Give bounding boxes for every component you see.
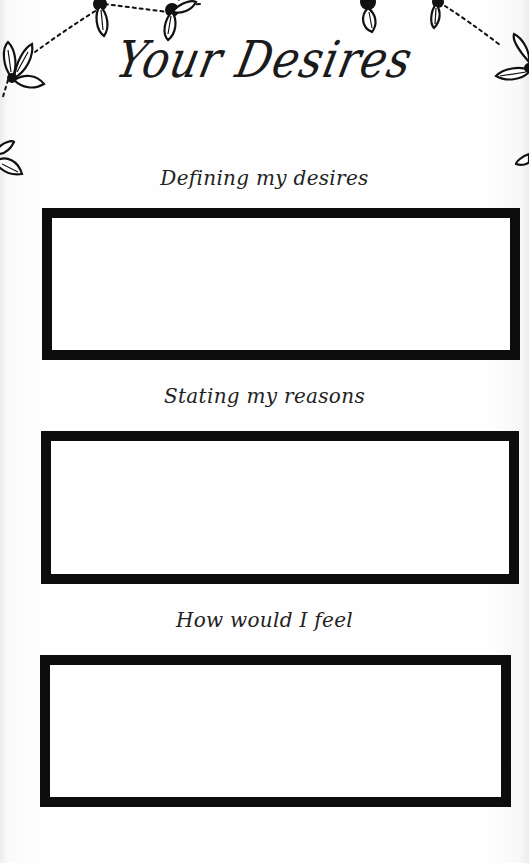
desires-writing-box[interactable] <box>42 208 520 360</box>
worksheet-page: Your Desires Defining my desires Stating… <box>0 0 529 863</box>
section-label-reasons: Stating my reasons <box>0 386 529 406</box>
leaf-cluster-icon <box>93 0 107 36</box>
page-title: Your Desires <box>0 35 529 86</box>
section-label-feelings: How would I feel <box>0 610 529 630</box>
section-label-desires: Defining my desires <box>0 168 529 188</box>
leaf-cluster-icon <box>360 0 376 32</box>
leaf-cluster-icon <box>516 154 529 165</box>
feelings-writing-box[interactable] <box>40 655 511 807</box>
leaf-cluster-icon <box>431 0 444 28</box>
reasons-writing-box[interactable] <box>41 431 519 584</box>
